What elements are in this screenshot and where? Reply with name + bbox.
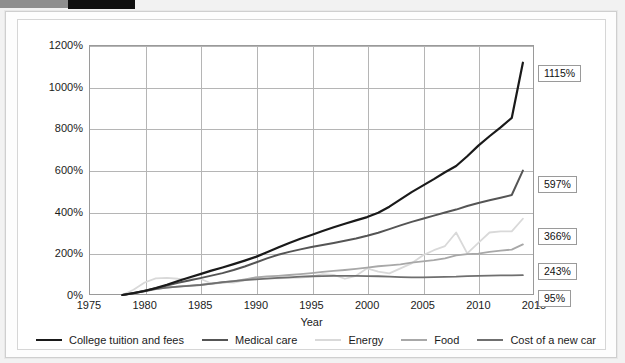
legend-label: Medical care — [235, 334, 297, 346]
screenshot-root: Year 0%200%400%600%800%1000%1200%1975198… — [0, 0, 625, 363]
line-chart: Year 0%200%400%600%800%1000%1200%1975198… — [18, 20, 607, 351]
legend-label: College tuition and fees — [69, 334, 184, 346]
chart-frame: Year 0%200%400%600%800%1000%1200%1975198… — [5, 11, 617, 358]
legend-swatch-icon — [477, 339, 503, 341]
legend-label: Energy — [348, 334, 383, 346]
series-end-value-label: 95% — [538, 290, 571, 307]
legend-swatch-icon — [36, 339, 62, 341]
series-layer — [18, 20, 607, 351]
chart-legend: College tuition and feesMedical careEner… — [36, 332, 596, 348]
legend-item[interactable]: Energy — [315, 334, 383, 346]
legend-swatch-icon — [315, 339, 341, 341]
legend-label: Cost of a new car — [510, 334, 596, 346]
series-end-value-label: 366% — [538, 228, 577, 245]
series-end-value-label: 597% — [538, 176, 577, 193]
legend-swatch-icon — [202, 339, 228, 341]
legend-swatch-icon — [401, 339, 427, 341]
series-line — [122, 63, 523, 295]
legend-item[interactable]: Food — [401, 334, 459, 346]
legend-item[interactable]: Medical care — [202, 334, 297, 346]
top-gray-bar — [0, 0, 68, 8]
series-line — [122, 244, 523, 295]
legend-item[interactable]: Cost of a new car — [477, 334, 596, 346]
series-end-value-label: 1115% — [538, 65, 581, 82]
top-black-bar — [68, 0, 135, 9]
legend-item[interactable]: College tuition and fees — [36, 334, 184, 346]
legend-label: Food — [434, 334, 459, 346]
chart-panel: Year 0%200%400%600%800%1000%1200%1975198… — [17, 19, 606, 350]
series-end-value-label: 243% — [538, 263, 577, 280]
